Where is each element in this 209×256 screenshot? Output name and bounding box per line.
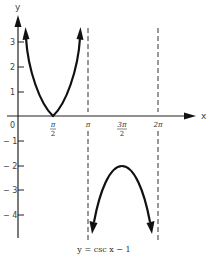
- y-tick-neg1: − 1: [3, 137, 17, 146]
- x-axis: x 0: [7, 111, 207, 130]
- y-tick-1: 1: [10, 88, 15, 97]
- y-ticks: [18, 42, 24, 215]
- y-axis: y: [15, 2, 22, 238]
- x-tick-labels: π 2 π 3π 2 2π: [50, 121, 163, 138]
- x-axis-arrow-icon: [184, 113, 196, 120]
- curve-arrow-icon: [147, 221, 155, 234]
- x-tick-2pi: 2π: [152, 121, 162, 129]
- x-tick-pi: π: [85, 121, 91, 129]
- y-axis-arrow-icon: [15, 15, 22, 27]
- curve-arrow-icon: [23, 27, 30, 40]
- x-tick-pi-over-2: π 2: [50, 121, 56, 138]
- curve-arrow-icon: [90, 221, 98, 234]
- svg-text:π: π: [50, 121, 56, 129]
- curve-branch-2: [90, 166, 155, 234]
- chart-caption: y = csc x − 1: [76, 245, 130, 254]
- svg-text:3π: 3π: [117, 121, 126, 129]
- origin-label: 0: [10, 121, 15, 130]
- curve-arrow-icon: [77, 27, 84, 40]
- y-tick-neg3: − 3: [3, 186, 17, 195]
- y-axis-label: y: [15, 2, 21, 12]
- svg-text:2: 2: [120, 130, 124, 138]
- y-tick-2: 2: [10, 63, 15, 72]
- svg-text:2: 2: [51, 130, 55, 138]
- x-axis-label: x: [201, 111, 207, 121]
- csc-graph: y x 0 3 2 1 − 1 − 2 − 3 − 4 π 2 π 3π: [0, 0, 209, 256]
- y-tick-neg2: − 2: [3, 162, 17, 171]
- curve-branch-1: [23, 27, 84, 116]
- x-tick-3pi-over-2: 3π 2: [117, 121, 127, 138]
- y-tick-3: 3: [10, 38, 15, 47]
- y-tick-neg4: − 4: [3, 211, 17, 220]
